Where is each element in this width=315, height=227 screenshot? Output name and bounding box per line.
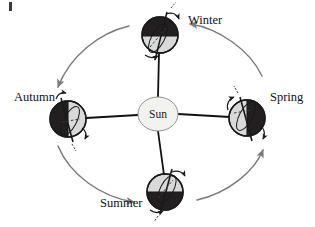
earth-spring-spin-arrow-bottom [262,127,264,139]
radial-line-sun-to-autumn [86,115,138,118]
radial-line-sun-to-spring [178,114,230,117]
diagram-canvas: Sun Winter [0,0,315,227]
orbit-arc-winter-to-autumn [58,26,129,87]
seasons-diagram: Sun Winter [0,0,315,227]
earth-winter-axis-tick [171,2,176,8]
earth-spring-label: Spring [270,90,304,104]
earth-winter: Winter [140,2,223,60]
earth-winter-label: Winter [188,13,223,27]
earth-autumn-label: Autumn [14,90,56,104]
earth-summer-label: Summer [100,196,143,210]
sun-label: Sun [149,108,167,120]
earth-autumn: Autumn [14,90,86,151]
earth-autumn-night-side [48,99,68,139]
earth-autumn-axis-tick [72,144,76,151]
radial-line-sun-to-summer [158,131,164,175]
orbit-arc-autumn-to-summer [58,146,134,202]
earth-summer: Summer [100,169,185,222]
earth-spring-axis-tick [234,86,238,93]
earth-summer-axis-tick [154,216,158,222]
radial-line-sun-to-winter [158,53,159,97]
orbit-arc-summer-to-spring [197,150,263,200]
orbit-arc-spring-to-winter [190,24,262,76]
earth-spring: Spring [227,86,304,141]
corner-registration-mark [9,2,12,11]
sun: Sun [138,97,178,131]
